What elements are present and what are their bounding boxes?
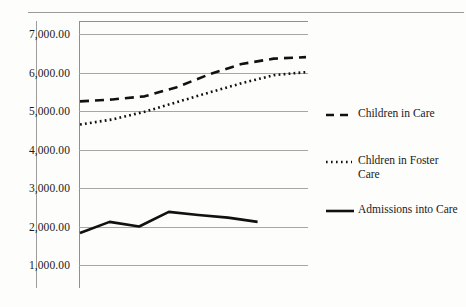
- gridline: [79, 188, 308, 189]
- gridline: [79, 73, 308, 74]
- legend-label-children-in-foster-care: Chldren in Foster Care: [355, 154, 458, 181]
- y-axis-tick-label: 3,000.00: [29, 182, 70, 194]
- y-axis-tick-label: 4,000.00: [29, 144, 70, 156]
- chart-figure: 7,000.006,000.005,000.004,000.003,000.00…: [0, 0, 466, 307]
- gridline: [79, 111, 308, 112]
- legend-item-admissions-into-care[interactable]: Admissions into Care: [325, 203, 458, 217]
- legend-swatch-dotted-icon: [325, 156, 355, 168]
- gridline: [79, 150, 308, 151]
- plot-area: [79, 21, 308, 288]
- y-axis-tick-label: 5,000.00: [29, 105, 70, 117]
- gridline: [79, 34, 308, 35]
- legend-item-children-in-foster-care[interactable]: Chldren in Foster Care: [325, 154, 458, 181]
- y-axis-tick-label: 7,000.00: [29, 28, 70, 40]
- legend-label-admissions-into-care: Admissions into Care: [355, 203, 458, 217]
- gridline: [79, 265, 308, 266]
- y-axis-tick-label: 6,000.00: [29, 67, 70, 79]
- y-axis-tick-label: 1,000.00: [29, 259, 70, 271]
- legend-swatch-solid-icon: [325, 205, 355, 217]
- legend-swatch-dashed-icon: [325, 109, 355, 121]
- gridline: [79, 227, 308, 228]
- legend-item-children-in-care[interactable]: Children in Care: [325, 107, 435, 121]
- y-axis-tick-label: 2,000.00: [29, 221, 70, 233]
- legend-label-children-in-care: Children in Care: [355, 107, 435, 121]
